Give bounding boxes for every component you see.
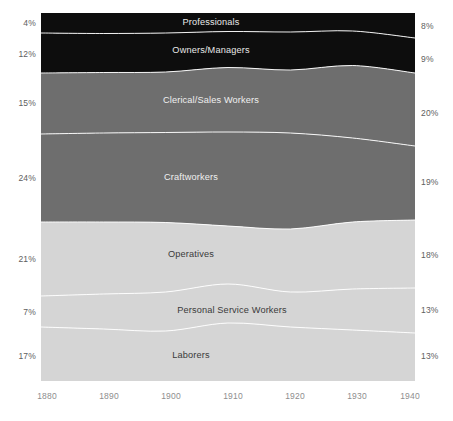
right-axis-label-owners-managers: 9% bbox=[421, 54, 434, 64]
right-axis-label-craftworkers: 19% bbox=[421, 177, 439, 187]
xtick-1940: 1940 bbox=[400, 391, 420, 401]
left-axis-label-personal-service: 7% bbox=[6, 307, 36, 317]
xtick-1900: 1900 bbox=[161, 391, 181, 401]
xtick-1890: 1890 bbox=[99, 391, 119, 401]
xtick-1930: 1930 bbox=[347, 391, 367, 401]
right-axis-label-operatives: 18% bbox=[421, 250, 439, 260]
xtick-1920: 1920 bbox=[285, 391, 305, 401]
stacked-area-chart: 4% 12% 15% 24% 21% 7% 17% 8% 9% 20% 19% … bbox=[0, 0, 453, 421]
band-label-owners-managers: Owners/Managers bbox=[172, 45, 249, 55]
right-axis-label-laborers: 13% bbox=[421, 351, 439, 361]
chart-plot-area bbox=[0, 0, 453, 421]
xtick-1880: 1880 bbox=[37, 391, 57, 401]
left-axis-label-owners-managers: 12% bbox=[6, 49, 36, 59]
left-axis-label-operatives: 21% bbox=[6, 254, 36, 264]
left-axis-label-professionals: 4% bbox=[6, 18, 36, 28]
band-label-clerical-sales-workers: Clerical/Sales Workers bbox=[163, 95, 259, 105]
left-axis-label-clerical-sales: 15% bbox=[6, 98, 36, 108]
left-axis-label-craftworkers: 24% bbox=[6, 173, 36, 183]
band-label-professionals: Professionals bbox=[182, 17, 239, 27]
band-label-craftworkers: Craftworkers bbox=[164, 172, 218, 182]
band-label-operatives: Operatives bbox=[168, 249, 214, 259]
right-axis-label-clerical-sales: 20% bbox=[421, 108, 439, 118]
area-band-craftworkers bbox=[41, 132, 415, 229]
band-label-laborers: Laborers bbox=[172, 350, 209, 360]
area-band-laborers bbox=[41, 323, 415, 381]
xtick-1910: 1910 bbox=[223, 391, 243, 401]
left-axis-label-laborers: 17% bbox=[6, 351, 36, 361]
right-axis-label-professionals: 8% bbox=[421, 21, 434, 31]
band-label-personal-service-workers: Personal Service Workers bbox=[177, 305, 287, 315]
right-axis-label-personal-service: 13% bbox=[421, 305, 439, 315]
